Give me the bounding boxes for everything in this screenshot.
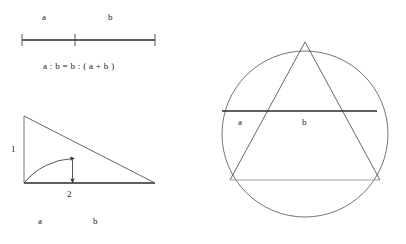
circle-label-a: a (238, 118, 242, 127)
construction-arc (24, 159, 73, 184)
circle-diagram-group (222, 42, 388, 217)
triangle-hypotenuse (24, 116, 155, 183)
circle-label-b: b (302, 118, 307, 127)
triangle-base-label: 2 (67, 190, 72, 199)
divided-segment-group (22, 34, 155, 46)
segment-label-a: a (42, 13, 46, 22)
ratio-equation: a : b = b : ( a + b ) (43, 62, 114, 71)
triangle-leg-label: 1 (11, 145, 16, 154)
figure-svg (0, 0, 406, 244)
bottom-label-a: a (38, 217, 42, 226)
figure-canvas: a b a : b = b : ( a + b ) 1 2 a b a b (0, 0, 406, 244)
outer-circle (222, 51, 388, 217)
right-triangle-group (24, 116, 155, 183)
bottom-label-b: b (93, 217, 98, 226)
segment-label-b: b (108, 13, 113, 22)
